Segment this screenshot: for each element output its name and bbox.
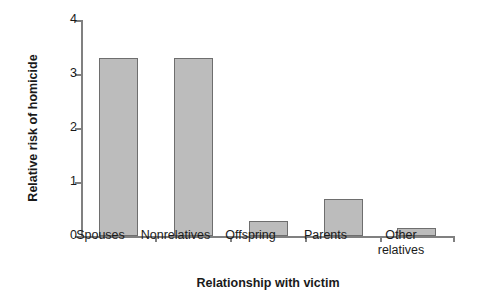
- x-label-other-relatives: Other relatives: [361, 228, 441, 258]
- bar-spouses: [99, 58, 138, 236]
- x-label-nonrelatives: Nonrelatives: [138, 228, 213, 243]
- x-label-line: Parents: [288, 228, 363, 243]
- y-tick-label: 1: [37, 173, 77, 189]
- y-tick-label: 2: [37, 119, 77, 135]
- bar-nonrelatives: [174, 58, 213, 236]
- x-label-line: relatives: [361, 243, 441, 258]
- y-tick-label: 4: [37, 11, 77, 27]
- x-label-parents: Parents: [288, 228, 363, 243]
- x-label-spouses: Spouses: [63, 228, 138, 243]
- x-label-line: Spouses: [63, 228, 138, 243]
- x-tick-separator-5: [453, 236, 455, 242]
- x-axis-title: Relationship with victim: [81, 276, 455, 290]
- x-label-offspring: Offspring: [213, 228, 288, 243]
- x-label-line: Other: [361, 228, 441, 243]
- x-label-line: Offspring: [213, 228, 288, 243]
- bar-chart-figure: Relative risk of homicide 0 1 2 3 4: [0, 0, 482, 302]
- y-axis-line: [81, 20, 83, 237]
- x-label-line: Nonrelatives: [138, 228, 213, 243]
- plot-area: 0 1 2 3 4: [81, 20, 455, 236]
- y-tick-label: 3: [37, 65, 77, 81]
